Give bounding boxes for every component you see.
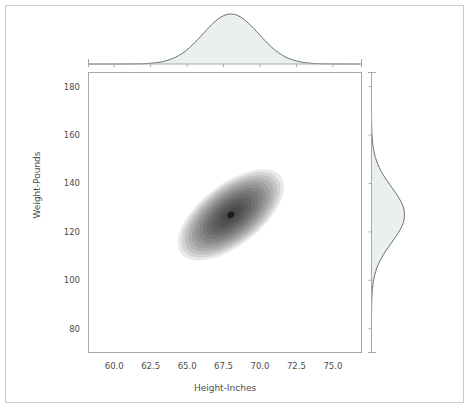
marginal-y-kde-fill [372,72,405,353]
y-axis-tick-label: 80 [46,324,80,334]
x-axis-tick-label: 75.0 [323,361,342,371]
marginal-y-axes [368,72,424,353]
marginal-x-kde-plot [88,9,362,67]
density-contour-levels [162,152,299,278]
x-axis-tick-label: 60.0 [105,361,124,371]
marginal-x-kde-fill [88,14,362,64]
x-axis-tick-label: 62.5 [141,361,160,371]
x-axis-title: Height-Inches [88,383,362,393]
kde-joint-plot-figure: 80100120140160180 60.062.565.067.570.072… [0,0,470,409]
y-axis-title: Weight-Pounds [32,115,42,255]
x-axis-tick-label: 65.0 [178,361,197,371]
x-axis-tick-label: 72.5 [287,361,306,371]
marginal-x-axes [88,9,362,67]
y-axis-tick-label: 180 [46,82,80,92]
marginal-y-kde-plot [368,72,424,353]
y-axis-tick-label: 120 [46,227,80,237]
y-axis-tick-label: 160 [46,130,80,140]
y-axis-tick-label: 100 [46,275,80,285]
x-axis-tick-label: 67.5 [214,361,233,371]
joint-axes [88,72,362,353]
bivariate-kde-contour-plot [89,73,361,352]
y-axis-tick-label: 140 [46,178,80,188]
x-axis-tick-label: 70.0 [251,361,270,371]
